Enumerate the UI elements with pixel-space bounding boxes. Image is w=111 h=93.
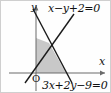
- line-label-upper: x−y+2=0: [48, 3, 100, 14]
- origin-label: O: [32, 74, 40, 84]
- line-label-lower: 3x+2y−9=0: [42, 80, 107, 91]
- y-axis-label: y: [31, 2, 37, 12]
- x-axis-arrow-icon: [100, 71, 105, 76]
- coordinate-plane-figure: x−y+2=0 3x+2y−9=0 x y O: [0, 0, 111, 93]
- x-axis-label: x: [99, 56, 105, 67]
